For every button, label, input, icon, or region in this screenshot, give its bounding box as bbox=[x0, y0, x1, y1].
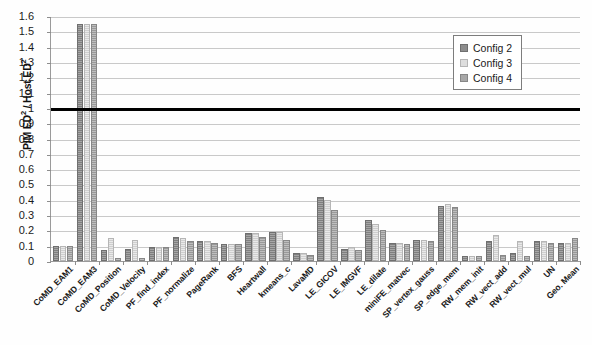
bar[interactable] bbox=[300, 253, 306, 261]
bar[interactable] bbox=[108, 238, 114, 261]
bar[interactable] bbox=[60, 246, 66, 261]
y-tick-label: 1.3 bbox=[0, 57, 34, 68]
y-tick-label: 0.8 bbox=[0, 134, 34, 145]
bar[interactable] bbox=[541, 241, 547, 261]
bar-group bbox=[219, 17, 243, 261]
bar[interactable] bbox=[572, 238, 578, 261]
bar[interactable] bbox=[324, 200, 330, 261]
bar[interactable] bbox=[252, 233, 258, 261]
bar[interactable] bbox=[84, 24, 90, 261]
bar[interactable] bbox=[565, 243, 571, 261]
bar[interactable] bbox=[517, 241, 523, 261]
bar[interactable] bbox=[187, 241, 193, 261]
legend-item[interactable]: Config 4 bbox=[460, 70, 512, 85]
bar[interactable] bbox=[476, 256, 482, 261]
bar[interactable] bbox=[53, 246, 59, 261]
bar-group bbox=[532, 17, 556, 261]
bar[interactable] bbox=[396, 243, 402, 261]
bar[interactable] bbox=[173, 237, 179, 262]
y-tick-mark bbox=[47, 262, 51, 263]
legend-label: Config 3 bbox=[473, 57, 512, 69]
bar[interactable] bbox=[228, 244, 234, 261]
bar-group bbox=[123, 17, 147, 261]
bar[interactable] bbox=[139, 258, 145, 261]
bar[interactable] bbox=[389, 243, 395, 261]
bar[interactable] bbox=[283, 240, 289, 261]
legend-swatch-icon bbox=[460, 44, 468, 52]
x-tick-mark bbox=[412, 261, 413, 265]
bar[interactable] bbox=[365, 220, 371, 261]
bar[interactable] bbox=[259, 237, 265, 262]
bar[interactable] bbox=[341, 249, 347, 261]
bar-group bbox=[147, 17, 171, 261]
bar[interactable] bbox=[428, 241, 434, 261]
bar[interactable] bbox=[307, 255, 313, 261]
bar[interactable] bbox=[500, 255, 506, 261]
bar-group bbox=[364, 17, 388, 261]
bar-group bbox=[243, 17, 267, 261]
bar[interactable] bbox=[493, 235, 499, 261]
bar[interactable] bbox=[91, 24, 97, 261]
bar[interactable] bbox=[534, 241, 540, 261]
bar[interactable] bbox=[115, 258, 121, 261]
bar[interactable] bbox=[413, 240, 419, 261]
bar[interactable] bbox=[421, 240, 427, 261]
bar[interactable] bbox=[125, 249, 131, 261]
bar[interactable] bbox=[486, 241, 492, 261]
bar[interactable] bbox=[548, 243, 554, 261]
bar[interactable] bbox=[132, 240, 138, 261]
bar[interactable] bbox=[101, 250, 107, 261]
bar[interactable] bbox=[355, 250, 361, 261]
bar[interactable] bbox=[524, 256, 530, 261]
x-tick-mark bbox=[484, 261, 485, 265]
bar[interactable] bbox=[462, 256, 468, 261]
bar[interactable] bbox=[445, 204, 451, 261]
host-reference-line bbox=[51, 108, 580, 111]
legend-item[interactable]: Config 3 bbox=[460, 55, 512, 70]
legend-swatch-icon bbox=[460, 59, 468, 67]
bar[interactable] bbox=[510, 253, 516, 261]
bar[interactable] bbox=[197, 241, 203, 261]
bar[interactable] bbox=[469, 256, 475, 261]
bar-group bbox=[412, 17, 436, 261]
bar[interactable] bbox=[269, 232, 275, 261]
bar[interactable] bbox=[380, 230, 386, 261]
y-tick-label: 0.6 bbox=[0, 164, 34, 175]
bar[interactable] bbox=[372, 224, 378, 261]
bar[interactable] bbox=[67, 246, 73, 261]
bar-group bbox=[171, 17, 195, 261]
bar[interactable] bbox=[221, 244, 227, 261]
bar[interactable] bbox=[404, 244, 410, 261]
x-tick-mark bbox=[556, 261, 557, 265]
bar[interactable] bbox=[77, 24, 83, 261]
bar[interactable] bbox=[235, 244, 241, 261]
bar-group bbox=[388, 17, 412, 261]
bar[interactable] bbox=[163, 247, 169, 261]
bar-group bbox=[556, 17, 580, 261]
y-tick-label: 0.3 bbox=[0, 210, 34, 221]
y-tick-label: 0.2 bbox=[0, 225, 34, 236]
bar[interactable] bbox=[204, 241, 210, 261]
bar-group bbox=[291, 17, 315, 261]
bar[interactable] bbox=[211, 243, 217, 261]
legend-item[interactable]: Config 2 bbox=[460, 40, 512, 55]
bar-group bbox=[51, 17, 75, 261]
bar[interactable] bbox=[180, 238, 186, 261]
bar[interactable] bbox=[317, 197, 323, 261]
bar[interactable] bbox=[331, 210, 337, 261]
bar[interactable] bbox=[245, 233, 251, 261]
bar[interactable] bbox=[452, 207, 458, 261]
bar-group bbox=[99, 17, 123, 261]
bar[interactable] bbox=[276, 232, 282, 261]
y-tick-label: 0.1 bbox=[0, 241, 34, 252]
legend: Config 2 Config 3 Config 4 bbox=[453, 35, 522, 90]
y-tick-label: 1 bbox=[0, 103, 34, 114]
x-axis-labels: CoMD_EAM1CoMD_EAM3CoMD_PositionCoMD_Velo… bbox=[50, 264, 580, 344]
bar[interactable] bbox=[156, 247, 162, 261]
bar[interactable] bbox=[438, 206, 444, 261]
bar[interactable] bbox=[348, 247, 354, 261]
bar[interactable] bbox=[293, 253, 299, 261]
bar[interactable] bbox=[149, 247, 155, 261]
bar[interactable] bbox=[558, 243, 564, 261]
x-tick-mark bbox=[195, 261, 196, 265]
